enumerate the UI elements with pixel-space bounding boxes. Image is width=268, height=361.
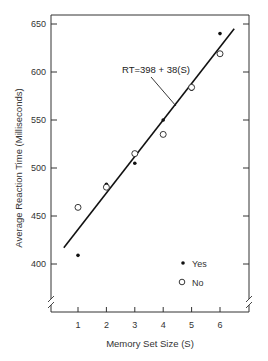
svg-text:4: 4 [161, 320, 166, 330]
no-data-point [189, 84, 195, 90]
svg-text:450: 450 [31, 211, 46, 221]
regression-equation-label: RT=398 + 38(S) [122, 64, 190, 75]
no-data-point [217, 51, 223, 57]
svg-text:400: 400 [31, 259, 46, 269]
svg-text:6: 6 [217, 320, 222, 330]
plot-frame [48, 15, 252, 312]
yes-data-point [218, 32, 222, 36]
regression-line [64, 29, 234, 248]
svg-text:2: 2 [104, 320, 109, 330]
yes-data-point [76, 254, 80, 258]
svg-text:550: 550 [31, 115, 46, 125]
legend-no-label: No [192, 278, 204, 288]
no-data-point [160, 131, 166, 137]
no-data-point [75, 204, 81, 210]
y-axis-ticks: 400450500550600650 [31, 19, 249, 269]
yes-data-point [133, 161, 137, 165]
annotation-leader-line [151, 77, 176, 106]
legend-yes-label: Yes [192, 259, 207, 269]
svg-text:500: 500 [31, 163, 46, 173]
svg-text:3: 3 [132, 320, 137, 330]
yes-data-point [161, 118, 165, 122]
x-axis-title: Memory Set Size (S) [106, 338, 194, 349]
svg-text:600: 600 [31, 67, 46, 77]
x-axis-ticks: 123456 [75, 307, 222, 330]
legend: Yes No [179, 259, 207, 288]
svg-text:5: 5 [189, 320, 194, 330]
no-data-point [132, 151, 138, 157]
no-data-point [103, 184, 109, 190]
legend-no-marker-icon [179, 279, 185, 285]
y-axis-title: Average Reaction Time (Milliseconds) [13, 88, 24, 247]
legend-yes-marker-icon [181, 261, 185, 265]
svg-text:1: 1 [75, 320, 80, 330]
reaction-time-chart: 400450500550600650 123456 RT=398 + 38(S)… [0, 0, 268, 361]
svg-text:650: 650 [31, 19, 46, 29]
